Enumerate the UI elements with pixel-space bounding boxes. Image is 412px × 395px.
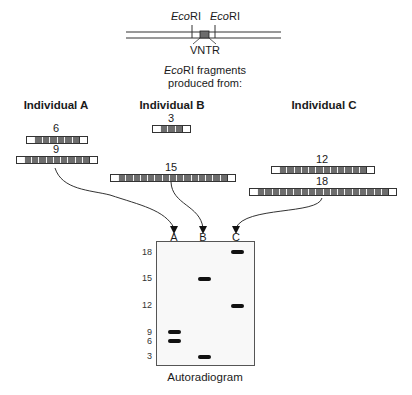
repeat-unit: [293, 189, 300, 195]
fragment-c2-label: 18: [316, 175, 328, 187]
fragment-a2-label: 9: [53, 143, 59, 155]
band-a-6: [168, 339, 181, 343]
repeat-unit: [31, 157, 38, 163]
repeat-unit: [67, 157, 74, 163]
repeat-unit: [337, 189, 344, 195]
repeat-unit: [366, 189, 373, 195]
ecori-site-right-label: EcoRI: [210, 10, 240, 22]
flank-cap: [89, 157, 97, 163]
repeat-unit: [257, 189, 264, 195]
repeat-unit: [140, 175, 147, 181]
repeat-unit: [352, 167, 359, 173]
repeat-unit: [191, 175, 198, 181]
flank-cap: [272, 167, 279, 173]
repeat-unit: [154, 175, 161, 181]
repeat-unit: [42, 137, 50, 143]
repeat-unit: [175, 126, 182, 132]
band-a-9: [168, 330, 181, 334]
repeat-unit: [337, 167, 344, 173]
repeat-unit: [34, 137, 42, 143]
fragment-bar-b1: [152, 125, 191, 133]
repeat-unit: [308, 167, 315, 173]
repeat-unit: [147, 175, 154, 181]
flank-cap: [27, 137, 34, 143]
repeat-unit: [374, 189, 381, 195]
band-b-15: [198, 277, 211, 281]
size-marker-6: 6: [147, 336, 152, 346]
repeat-unit: [301, 167, 308, 173]
repeat-unit: [53, 157, 60, 163]
repeat-unit: [49, 137, 57, 143]
repeat-unit: [24, 157, 31, 163]
fragment-c1-label: 12: [316, 153, 328, 165]
repeat-unit: [82, 157, 89, 163]
band-b-3: [198, 355, 211, 359]
repeat-unit: [220, 175, 227, 181]
repeat-unit: [72, 137, 80, 143]
repeat-unit: [118, 175, 125, 181]
fragment-bar-c2: [249, 188, 397, 196]
fragment-bar-c1: [271, 166, 375, 174]
repeat-unit: [352, 189, 359, 195]
repeat-unit: [344, 189, 351, 195]
fragments-caption-line1: EcoRI fragments: [164, 64, 246, 76]
fragment-bar-a1: [26, 136, 88, 144]
individual-b-header: Individual B: [139, 99, 204, 111]
flank-cap: [227, 175, 235, 181]
flank-cap: [250, 189, 257, 195]
repeat-unit: [359, 167, 366, 173]
repeat-unit: [264, 189, 271, 195]
individual-c-header: Individual C: [291, 99, 356, 111]
fragments-caption-line2: produced from:: [168, 77, 242, 89]
repeat-unit: [198, 175, 205, 181]
repeat-unit: [323, 189, 330, 195]
fragment-b2-label: 15: [165, 161, 177, 173]
flank-cap: [17, 157, 24, 163]
repeat-unit: [176, 175, 183, 181]
repeat-unit: [272, 189, 279, 195]
repeat-unit: [160, 126, 167, 132]
fragment-b1-label: 3: [168, 112, 174, 124]
size-marker-3: 3: [147, 351, 152, 361]
autoradiogram-gel: [156, 241, 255, 366]
flank-cap: [366, 167, 374, 173]
size-marker-18: 18: [142, 247, 152, 257]
flank-cap: [153, 126, 160, 132]
flank-cap: [182, 126, 190, 132]
autoradiogram-caption: Autoradiogram: [167, 371, 242, 383]
repeat-unit: [60, 157, 67, 163]
repeat-unit: [212, 175, 219, 181]
repeat-unit: [359, 189, 366, 195]
repeat-unit: [286, 167, 293, 173]
repeat-unit: [46, 157, 53, 163]
repeat-unit: [57, 137, 65, 143]
repeat-unit: [125, 175, 132, 181]
repeat-unit: [344, 167, 351, 173]
repeat-unit: [64, 137, 72, 143]
repeat-unit: [133, 175, 140, 181]
repeat-unit: [162, 175, 169, 181]
size-marker-15: 15: [142, 273, 152, 283]
repeat-unit: [323, 167, 330, 173]
fragment-bar-a2: [16, 156, 98, 164]
repeat-unit: [308, 189, 315, 195]
band-c-12: [231, 304, 244, 308]
repeat-unit: [381, 189, 388, 195]
individual-a-header: Individual A: [24, 99, 89, 111]
flank-cap: [111, 175, 118, 181]
repeat-unit: [38, 157, 45, 163]
size-marker-12: 12: [142, 300, 152, 310]
repeat-unit: [315, 167, 322, 173]
repeat-unit: [279, 189, 286, 195]
repeat-unit: [301, 189, 308, 195]
fragment-bar-b2: [110, 174, 236, 182]
flank-cap: [79, 137, 87, 143]
flank-cap: [388, 189, 396, 195]
repeat-unit: [183, 175, 190, 181]
repeat-unit: [315, 189, 322, 195]
ecori-site-left-label: EcoRI: [171, 10, 201, 22]
band-c-18: [231, 250, 244, 254]
repeat-unit: [330, 189, 337, 195]
repeat-unit: [286, 189, 293, 195]
repeat-unit: [75, 157, 82, 163]
